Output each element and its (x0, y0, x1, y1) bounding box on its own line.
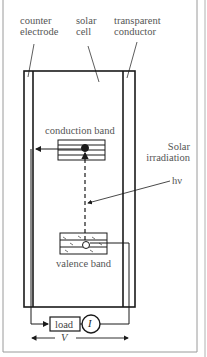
label-counter-electrode: counter electrode (20, 15, 58, 37)
label-line: transparent (114, 15, 161, 26)
label-line: counter (20, 15, 58, 26)
label-load: load (55, 319, 73, 330)
label-voltage: V (61, 332, 67, 343)
label-line: conductor (114, 26, 161, 37)
label-line: Solar (146, 141, 190, 152)
label-valence-band: valence band (56, 258, 111, 269)
label-line: solar (76, 15, 96, 26)
label-solar-irradiation: Solar irradiation (146, 141, 190, 163)
cell-body (24, 71, 135, 307)
label-current: I (88, 318, 92, 329)
conduction-band-box (58, 140, 105, 160)
label-transparent-conductor: transparent conductor (114, 15, 161, 37)
label-line: electrode (20, 26, 58, 37)
label-conduction-band: conduction band (45, 125, 115, 136)
label-line: cell (76, 26, 96, 37)
label-photon: hν (172, 175, 182, 186)
hole-circle (83, 242, 90, 249)
label-leaders (28, 42, 137, 82)
label-line: irradiation (146, 152, 190, 163)
electron-dot (82, 145, 89, 152)
photon-pointer (88, 181, 170, 203)
label-solar-cell: solar cell (76, 15, 96, 37)
